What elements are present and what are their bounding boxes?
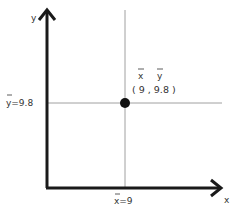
x-axis-label: x xyxy=(224,195,230,205)
mean-point-diagram: y x x y ( 9 , 9.8 ) y=9.8 x=9 xyxy=(0,0,230,207)
mean-point xyxy=(120,98,130,108)
point-coordinate-label: ( 9 , 9.8 ) xyxy=(132,84,176,95)
x-mean-label: x=9 xyxy=(114,196,133,206)
point-x-symbol: x xyxy=(138,71,144,81)
point-y-symbol: y xyxy=(157,71,163,81)
y-axis-label: y xyxy=(31,13,37,23)
y-mean-label: y=9.8 xyxy=(6,98,33,108)
